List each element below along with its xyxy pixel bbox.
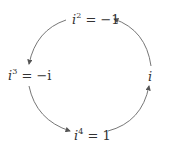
- node-i-fourth: i4 = 1: [74, 128, 111, 142]
- arrow-top-to-left: [29, 20, 66, 64]
- node-i-cubed: i3 = −i: [8, 68, 51, 82]
- arrow-left-to-bottom: [29, 86, 70, 131]
- node-i: i: [148, 70, 152, 83]
- node-i-squared: i2 = −1: [72, 12, 120, 26]
- arrow-bottom-to-right: [108, 86, 149, 131]
